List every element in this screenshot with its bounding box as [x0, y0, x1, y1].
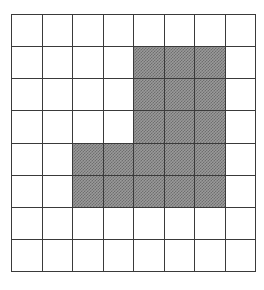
- grid-cell-empty: [73, 111, 104, 143]
- grid-cell-empty: [73, 47, 104, 79]
- grid-cell-shaded: [195, 111, 226, 143]
- grid-cell-shaded: [103, 175, 134, 207]
- cell-grid: [11, 14, 256, 272]
- grid-cell-empty: [134, 239, 165, 271]
- grid-cell-empty: [134, 207, 165, 239]
- grid-cell-empty: [103, 47, 134, 79]
- grid-cell-empty: [103, 79, 134, 111]
- grid-cell-empty: [73, 15, 104, 47]
- grid-cell-empty: [195, 15, 226, 47]
- grid-cell-shaded: [103, 143, 134, 175]
- grid-cell-empty: [225, 207, 256, 239]
- grid-cell-empty: [73, 79, 104, 111]
- grid-figure: [0, 0, 264, 290]
- grid-cell-empty: [103, 239, 134, 271]
- grid-body: [12, 15, 256, 272]
- grid-cell-shaded: [195, 47, 226, 79]
- grid-cell-empty: [225, 15, 256, 47]
- grid-cell-empty: [12, 111, 43, 143]
- grid-cell-empty: [12, 143, 43, 175]
- grid-cell-shaded: [164, 175, 195, 207]
- grid-cell-empty: [42, 47, 73, 79]
- grid-cell-shaded: [73, 143, 104, 175]
- grid-row: [12, 47, 256, 79]
- grid-cell-empty: [164, 15, 195, 47]
- grid-row: [12, 175, 256, 207]
- grid-cell-empty: [42, 207, 73, 239]
- grid-cell-empty: [225, 143, 256, 175]
- grid-cell-empty: [12, 175, 43, 207]
- grid-cell-empty: [42, 143, 73, 175]
- grid-cell-shaded: [134, 47, 165, 79]
- grid-cell-empty: [103, 207, 134, 239]
- grid-cell-empty: [225, 111, 256, 143]
- grid-cell-empty: [73, 239, 104, 271]
- grid-cell-empty: [12, 47, 43, 79]
- grid-cell-shaded: [164, 79, 195, 111]
- grid-cell-shaded: [134, 111, 165, 143]
- grid-row: [12, 207, 256, 239]
- grid-cell-empty: [164, 207, 195, 239]
- grid-cell-empty: [225, 47, 256, 79]
- grid-cell-empty: [42, 15, 73, 47]
- grid-cell-empty: [12, 239, 43, 271]
- grid-cell-shaded: [195, 175, 226, 207]
- grid-cell-shaded: [73, 175, 104, 207]
- grid-cell-shaded: [134, 175, 165, 207]
- grid-cell-empty: [12, 207, 43, 239]
- grid-cell-empty: [73, 207, 104, 239]
- grid-cell-empty: [42, 79, 73, 111]
- grid-cell-empty: [225, 239, 256, 271]
- grid-row: [12, 239, 256, 271]
- grid-cell-empty: [195, 207, 226, 239]
- grid-cell-empty: [42, 111, 73, 143]
- grid-cell-empty: [103, 111, 134, 143]
- grid-cell-shaded: [134, 143, 165, 175]
- grid-cell-empty: [42, 239, 73, 271]
- grid-cell-empty: [103, 15, 134, 47]
- grid-cell-shaded: [195, 143, 226, 175]
- grid-cell-empty: [225, 79, 256, 111]
- grid-cell-empty: [195, 239, 226, 271]
- grid-cell-empty: [225, 175, 256, 207]
- grid-cell-shaded: [134, 79, 165, 111]
- grid-cell-empty: [134, 15, 165, 47]
- grid-cell-shaded: [164, 143, 195, 175]
- grid-row: [12, 111, 256, 143]
- grid-cell-shaded: [164, 47, 195, 79]
- grid-cell-shaded: [164, 111, 195, 143]
- grid-cell-shaded: [195, 79, 226, 111]
- grid-cell-empty: [12, 15, 43, 47]
- grid-row: [12, 79, 256, 111]
- grid-cell-empty: [42, 175, 73, 207]
- grid-row: [12, 143, 256, 175]
- grid-row: [12, 15, 256, 47]
- grid-cell-empty: [164, 239, 195, 271]
- grid-cell-empty: [12, 79, 43, 111]
